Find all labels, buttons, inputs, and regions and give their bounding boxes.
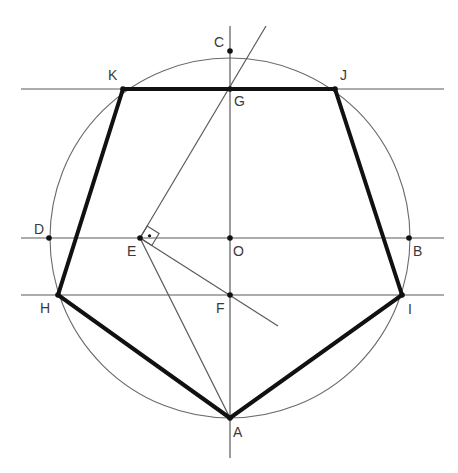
point-I-label: I — [408, 301, 412, 317]
line-EG-extended — [140, 26, 266, 238]
point-F-dot — [227, 292, 233, 298]
point-B-label: B — [413, 243, 422, 259]
point-E-dot — [137, 235, 143, 241]
point-I-dot — [399, 292, 405, 298]
point-J-dot — [332, 86, 338, 92]
point-D-label: D — [34, 221, 44, 237]
point-F-label: F — [216, 300, 225, 316]
point-K-label: K — [108, 67, 118, 83]
line-EF-extended — [140, 238, 278, 326]
pentagon-construction-diagram: CKJGDEOBHFIA — [0, 0, 458, 473]
labeled-points: CKJGDEOBHFIA — [34, 34, 422, 440]
point-E-label: E — [127, 243, 136, 259]
point-O-dot — [227, 235, 233, 241]
point-D-dot — [46, 235, 52, 241]
point-A-label: A — [233, 424, 243, 440]
point-G-label: G — [234, 93, 245, 109]
right-angle-dot — [148, 234, 151, 237]
point-C-label: C — [214, 34, 224, 50]
point-G-dot — [227, 86, 233, 92]
point-H-dot — [55, 292, 61, 298]
point-B-dot — [406, 235, 412, 241]
point-O-label: O — [233, 243, 244, 259]
point-K-dot — [120, 86, 126, 92]
line-EA — [140, 238, 230, 418]
point-C-dot — [227, 48, 233, 54]
point-J-label: J — [340, 67, 347, 83]
point-A-dot — [227, 415, 233, 421]
point-H-label: H — [40, 300, 50, 316]
